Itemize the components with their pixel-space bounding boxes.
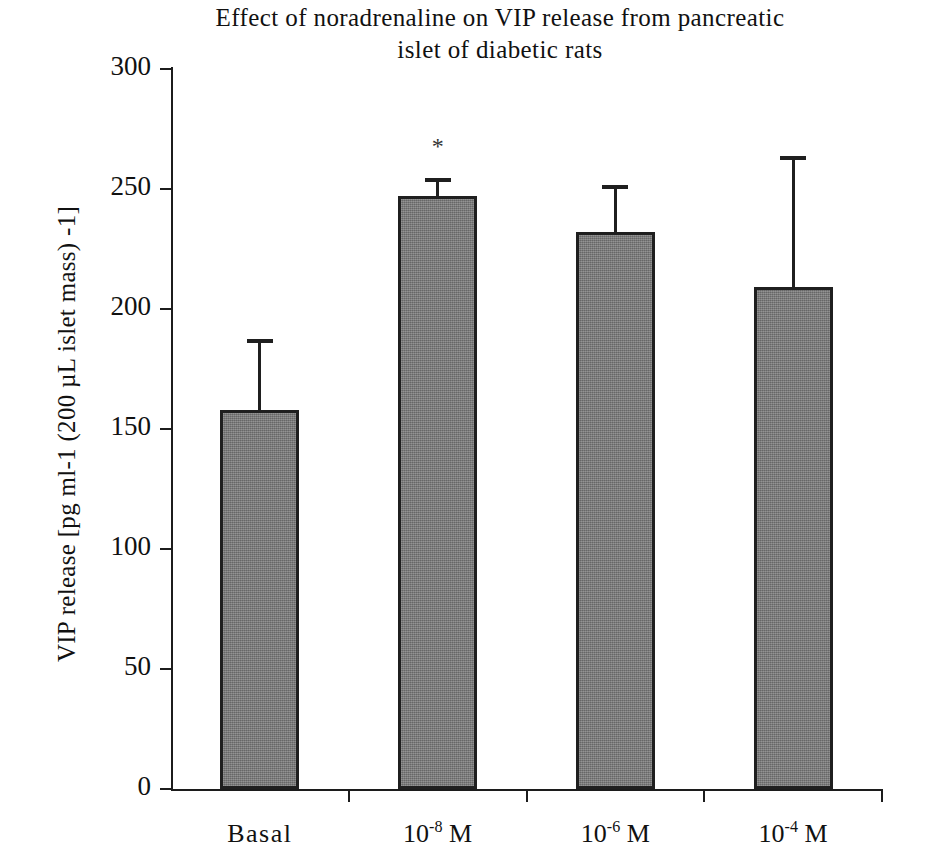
error-bar-stem bbox=[436, 182, 439, 196]
y-tick-300: 300 bbox=[160, 68, 171, 70]
error-bar-cap bbox=[425, 178, 451, 182]
bar-10-8-m[interactable] bbox=[398, 196, 477, 789]
x-axis-label-0: Basal bbox=[160, 821, 360, 847]
error-bar-stem bbox=[614, 189, 617, 232]
significance-marker: * bbox=[432, 134, 444, 158]
x-axis-label-3: 10-4 M bbox=[693, 821, 893, 847]
y-tick-50: 50 bbox=[160, 668, 171, 670]
y-axis-title: VIP release [pg ml-1 (200 µL islet mass)… bbox=[53, 84, 81, 784]
y-tick-label-50: 50 bbox=[124, 653, 151, 680]
y-tick-200: 200 bbox=[160, 308, 171, 310]
error-bar-stem bbox=[792, 160, 795, 287]
error-bar-stem bbox=[258, 343, 261, 410]
x-label-suffix: M bbox=[620, 819, 650, 848]
x-axis-label-2: 10-6 M bbox=[515, 821, 715, 847]
y-tick-label-150: 150 bbox=[111, 413, 152, 440]
x-tick-2 bbox=[526, 789, 528, 802]
bar-group bbox=[754, 69, 833, 789]
plot-area: 050100150200250300 * bbox=[171, 69, 882, 789]
bar-10-6-m[interactable] bbox=[576, 232, 655, 789]
y-tick-100: 100 bbox=[160, 548, 171, 550]
x-label-exponent: -6 bbox=[607, 818, 620, 835]
y-tick-label-100: 100 bbox=[111, 533, 152, 560]
x-label-exponent: -8 bbox=[429, 818, 442, 835]
chart-figure: Effect of noradrenaline on VIP release f… bbox=[0, 0, 949, 865]
error-bar-cap bbox=[602, 185, 628, 189]
y-tick-label-250: 250 bbox=[111, 173, 152, 200]
bar-basal[interactable] bbox=[220, 410, 299, 789]
x-tick-1 bbox=[348, 789, 350, 802]
x-axis-label-1: 10-8 M bbox=[338, 821, 538, 847]
chart-title: Effect of noradrenaline on VIP release f… bbox=[150, 2, 850, 66]
error-bar-cap bbox=[780, 156, 806, 160]
x-label-base: 10 bbox=[581, 819, 607, 848]
bar-group bbox=[220, 69, 299, 789]
x-tick-3 bbox=[703, 789, 705, 802]
chart-title-line-2: islet of diabetic rats bbox=[397, 36, 602, 63]
bar-group bbox=[576, 69, 655, 789]
y-tick-250: 250 bbox=[160, 188, 171, 190]
x-label-suffix: M bbox=[443, 819, 473, 848]
error-bar-cap bbox=[247, 339, 273, 343]
x-tick-4 bbox=[881, 789, 883, 802]
x-label-suffix: M bbox=[798, 819, 828, 848]
y-tick-0: 0 bbox=[160, 788, 171, 790]
y-tick-150: 150 bbox=[160, 428, 171, 430]
y-axis-line bbox=[171, 67, 173, 791]
chart-title-line-1: Effect of noradrenaline on VIP release f… bbox=[216, 4, 785, 31]
y-tick-label-200: 200 bbox=[111, 293, 152, 320]
x-label-exponent: -4 bbox=[785, 818, 798, 835]
x-label-base: 10 bbox=[759, 819, 785, 848]
y-tick-label-0: 0 bbox=[138, 773, 152, 800]
bar-group: * bbox=[398, 69, 477, 789]
x-label-base: 10 bbox=[403, 819, 429, 848]
bar-10-4-m[interactable] bbox=[754, 287, 833, 789]
y-tick-label-300: 300 bbox=[111, 53, 152, 80]
